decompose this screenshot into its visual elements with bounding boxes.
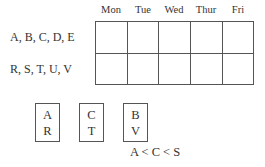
- pair-card-3: B V: [123, 103, 148, 142]
- pair-card-bottom-letter: R: [36, 124, 59, 139]
- grid-cell-row2-fri: [222, 54, 253, 85]
- grid-cell-row1-mon: [96, 22, 127, 53]
- pair-card-bottom-letter: V: [124, 124, 147, 139]
- pair-card-2: C T: [79, 103, 104, 142]
- row-label-second-group: R, S, T, U, V: [10, 62, 72, 77]
- row-label-first-group: A, B, C, D, E: [10, 30, 75, 45]
- grid-cell-row1-thur: [190, 22, 221, 53]
- pair-card-bottom-letter: T: [80, 124, 103, 139]
- day-header-tue: Tue: [127, 4, 159, 15]
- grid-cell-row1-fri: [222, 22, 253, 53]
- pair-card-top-letter: C: [80, 108, 103, 123]
- grid-cell-row2-tue: [127, 54, 158, 85]
- ordering-constraint: A < C < S: [130, 145, 180, 160]
- grid-cell-row1-wed: [158, 22, 189, 53]
- schedule-grid: [95, 21, 254, 85]
- grid-cell-row2-thur: [190, 54, 221, 85]
- day-header-mon: Mon: [95, 4, 127, 15]
- grid-cell-row1-tue: [127, 22, 158, 53]
- grid-cell-row2-mon: [96, 54, 127, 85]
- day-header-thur: Thur: [190, 4, 222, 15]
- pair-card-top-letter: B: [124, 108, 147, 123]
- pair-card-1: A R: [35, 103, 60, 142]
- day-header-fri: Fri: [222, 4, 254, 15]
- grid-cell-row2-wed: [158, 54, 189, 85]
- day-header-wed: Wed: [158, 4, 190, 15]
- pair-card-top-letter: A: [36, 108, 59, 123]
